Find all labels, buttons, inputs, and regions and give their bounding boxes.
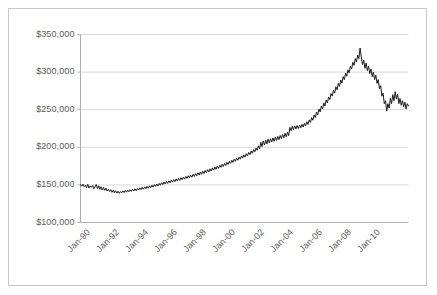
chart-screenshot: $100,000$150,000$200,000$250,000$300,000… <box>0 0 437 295</box>
data-series-line <box>81 48 409 193</box>
line-chart <box>0 0 437 295</box>
